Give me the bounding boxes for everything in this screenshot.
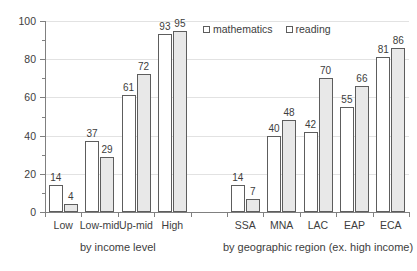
legend-item-reading: reading xyxy=(286,24,331,35)
bar-value-label: 70 xyxy=(312,66,340,76)
bar-reading-low-mid xyxy=(100,157,114,212)
bar-value-label: 72 xyxy=(130,62,158,72)
x-axis-category-label-eca: ECA xyxy=(361,220,417,231)
bar-mathematics-lac xyxy=(304,132,318,212)
bar-value-label: 66 xyxy=(348,74,376,84)
y-axis-tick-minor xyxy=(42,155,46,156)
y-axis-tick-minor xyxy=(42,193,46,194)
x-axis-tick xyxy=(336,212,337,217)
x-axis-tick xyxy=(409,212,410,217)
x-axis-category-label-high: High xyxy=(142,220,202,231)
bar-reading-high xyxy=(173,31,187,212)
bar-chart: 020406080100 144372961729395147404842705… xyxy=(0,0,417,271)
x-axis-tick xyxy=(373,212,374,217)
bar-reading-mna xyxy=(282,120,296,212)
x-axis-tick xyxy=(227,212,228,217)
y-axis-tick-minor xyxy=(42,40,46,41)
bar-reading-low xyxy=(64,204,78,212)
bar-value-label: 14 xyxy=(42,173,70,183)
bar-value-label: 4 xyxy=(57,192,85,202)
bar-value-label: 95 xyxy=(166,19,194,29)
y-axis-tick-major xyxy=(40,21,46,22)
gridline xyxy=(45,21,409,22)
legend-swatch-icon-mathematics xyxy=(203,26,210,33)
y-axis-tick-label: 60 xyxy=(6,92,36,102)
y-axis-tick-major xyxy=(40,136,46,137)
x-axis-tick xyxy=(118,212,119,217)
y-axis-tick-label: 20 xyxy=(6,169,36,179)
y-axis-tick-major xyxy=(40,97,46,98)
bar-value-label: 29 xyxy=(93,145,121,155)
bar-mathematics-high xyxy=(158,34,172,212)
legend-label-mathematics: mathematics xyxy=(213,24,273,35)
legend-item-mathematics: mathematics xyxy=(203,24,273,35)
y-axis-tick-label: 80 xyxy=(6,54,36,64)
legend-label-reading: reading xyxy=(296,24,331,35)
legend: mathematics reading xyxy=(203,24,331,35)
bar-mathematics-eca xyxy=(376,57,390,212)
bar-value-label: 48 xyxy=(275,108,303,118)
bar-value-label: 7 xyxy=(239,187,267,197)
bar-reading-lac xyxy=(319,78,333,212)
x-axis-tick xyxy=(45,212,46,217)
x-axis-tick xyxy=(81,212,82,217)
y-axis-tick-minor xyxy=(42,117,46,118)
bar-reading-eca xyxy=(391,48,405,212)
y-axis-tick-label: 100 xyxy=(6,16,36,26)
bar-reading-ssa xyxy=(246,199,260,212)
bar-reading-eap xyxy=(355,86,369,212)
bar-value-label: 14 xyxy=(224,173,252,183)
y-axis-tick-label: 0 xyxy=(6,207,36,217)
x-axis-section-label-geographic-region: by geographic region (ex. high income) xyxy=(168,241,417,253)
x-axis-tick xyxy=(154,212,155,217)
bar-mathematics-mna xyxy=(267,136,281,212)
x-axis-tick xyxy=(191,212,192,217)
bar-reading-up-mid xyxy=(137,74,151,212)
y-axis-tick-label: 40 xyxy=(6,131,36,141)
y-axis-tick-major xyxy=(40,59,46,60)
gridline xyxy=(45,59,409,60)
bar-value-label: 86 xyxy=(384,36,412,46)
bar-value-label: 37 xyxy=(78,129,106,139)
y-axis-tick-minor xyxy=(42,78,46,79)
x-axis-tick xyxy=(263,212,264,217)
bar-mathematics-up-mid xyxy=(122,95,136,212)
x-axis-tick xyxy=(300,212,301,217)
legend-swatch-icon-reading xyxy=(286,26,293,33)
bar-mathematics-eap xyxy=(340,107,354,212)
